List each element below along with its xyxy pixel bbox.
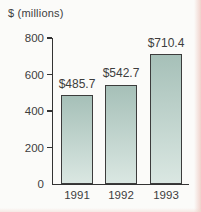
bar-1992: [105, 85, 137, 184]
y-axis-line: [52, 38, 54, 186]
plot-area: 0200400600800$485.71991$542.71992$710.41…: [0, 0, 201, 212]
bar-chart-figure: $ (millions) 0200400600800$485.71991$542…: [0, 0, 201, 212]
scan-edge-tint-bottom: [0, 208, 201, 212]
x-axis-category-label: 1992: [99, 189, 143, 202]
x-axis-category-label: 1993: [144, 189, 188, 202]
y-axis-tick: [47, 37, 52, 38]
bar-1993: [150, 54, 182, 184]
bar-1991: [61, 95, 93, 184]
y-axis-tick-label: 400: [8, 104, 44, 118]
bar-value-label: $710.4: [135, 37, 197, 50]
y-axis-tick-label: 0: [8, 177, 44, 191]
bar-value-label: $542.7: [90, 67, 152, 80]
y-axis-tick-label: 600: [8, 68, 44, 82]
y-axis-tick-label: 800: [8, 31, 44, 45]
x-axis-category-label: 1991: [55, 189, 99, 202]
y-axis-tick-label: 200: [8, 141, 44, 155]
y-axis-tick: [47, 110, 52, 111]
y-axis-tick: [47, 147, 52, 148]
scan-edge-tint-right: [194, 0, 201, 212]
y-axis-tick: [47, 74, 52, 75]
